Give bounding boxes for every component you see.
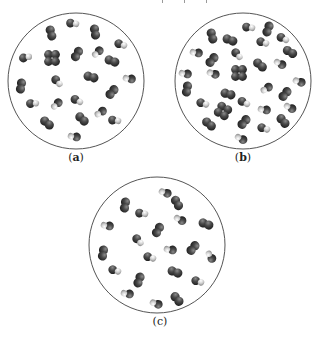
hetero-molecule [49, 97, 65, 111]
figure-molecule-diagrams: (a) (b) (c) [0, 0, 319, 347]
diatomic-molecule [275, 112, 292, 130]
diatomic-molecule [45, 24, 58, 41]
hetero-molecule [122, 72, 137, 85]
hetero-molecule [93, 105, 108, 118]
diatomic-molecule [197, 217, 214, 231]
diatomic-molecule [206, 27, 219, 44]
hetero-molecule [234, 131, 250, 146]
diatomic-molecule [236, 113, 253, 131]
hetero-molecule [259, 81, 274, 94]
cluster-molecule [212, 100, 234, 122]
hetero-molecule [283, 100, 299, 115]
label-paren-close: ) [80, 151, 84, 164]
hetero-molecule [134, 207, 149, 220]
diatomic-molecule [69, 45, 85, 63]
diatomic-molecule [119, 197, 131, 214]
hetero-molecule [100, 219, 115, 232]
hetero-molecule [190, 275, 206, 289]
hetero-molecule [178, 67, 193, 80]
diatomic-molecule [169, 290, 186, 308]
label-paren-close: ) [247, 151, 251, 164]
label-letter: b [239, 151, 247, 164]
hetero-molecule [273, 56, 289, 71]
diatomic-molecule [103, 54, 120, 68]
hetero-molecule [163, 243, 178, 256]
hetero-molecule [256, 122, 272, 136]
diatomic-molecule [89, 24, 101, 41]
label-paren-close: ) [163, 315, 167, 328]
diatomic-molecule [15, 78, 27, 95]
hetero-molecule [19, 54, 32, 63]
diatomic-molecule [166, 265, 183, 279]
hetero-molecule [120, 287, 135, 300]
hetero-molecule [241, 21, 256, 34]
hetero-molecule [113, 38, 129, 52]
hetero-molecule [292, 74, 308, 88]
diatomic-molecule [200, 116, 218, 133]
hetero-molecule [205, 249, 218, 264]
panel-label-c: (c) [145, 315, 175, 328]
diatomic-molecule [204, 51, 221, 69]
hetero-molecule [65, 17, 80, 30]
diatomic-molecule [277, 85, 294, 103]
diatomic-molecule [169, 194, 185, 212]
hetero-molecule [158, 185, 174, 199]
hetero-molecule [90, 45, 106, 59]
panel-c [89, 177, 225, 313]
panel-label-a: (a) [61, 151, 91, 164]
container-circle [8, 13, 144, 149]
hetero-molecule [50, 74, 64, 90]
container-circle [89, 177, 225, 313]
diatomic-molecule [221, 33, 238, 47]
hetero-molecule [255, 36, 271, 50]
diatomic-molecule [281, 44, 299, 60]
hetero-molecule [142, 251, 158, 265]
hetero-molecule [189, 46, 204, 59]
hetero-molecule [275, 31, 291, 46]
hetero-molecule [206, 66, 222, 80]
diatomic-molecule [219, 88, 236, 101]
diatomic-molecule [104, 83, 121, 101]
panel-label-b: (b) [228, 151, 258, 164]
hetero-molecule [236, 95, 252, 110]
hetero-molecule [69, 93, 85, 108]
hetero-molecule [131, 233, 145, 249]
hetero-molecule [25, 98, 39, 109]
label-letter: a [72, 151, 79, 164]
cluster-molecule [44, 50, 60, 66]
panel-b [175, 13, 311, 149]
hetero-molecule [257, 103, 272, 116]
diatomic-molecule [97, 245, 109, 262]
panel-a [8, 13, 144, 149]
cluster-molecule [231, 65, 247, 81]
diatomic-molecule [82, 71, 99, 84]
diatomic-molecule [73, 110, 90, 127]
diatomic-molecule [150, 221, 166, 239]
diatomic-molecule [261, 20, 275, 37]
hetero-molecule [173, 212, 189, 227]
diatomic-molecule [181, 81, 193, 98]
diatomic-molecule [185, 239, 202, 257]
hetero-molecule [195, 97, 211, 111]
hetero-molecule [230, 47, 244, 63]
diatomic-molecule [38, 115, 56, 132]
diatomic-molecule [132, 271, 146, 288]
hetero-molecule [107, 264, 123, 278]
diatomic-molecule [251, 57, 269, 74]
molecule-panels-canvas [0, 0, 319, 347]
hetero-molecule [107, 114, 122, 127]
hetero-molecule [149, 296, 165, 310]
hetero-molecule [67, 130, 82, 143]
